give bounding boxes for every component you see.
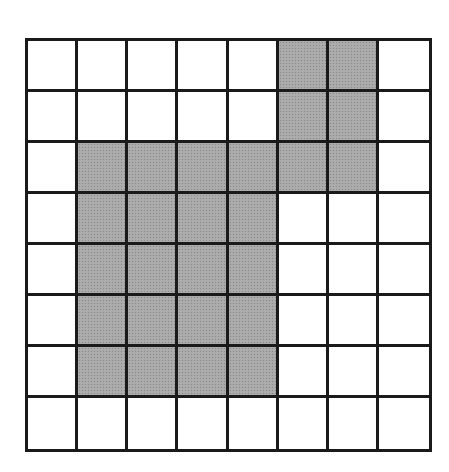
empty-cell bbox=[178, 398, 228, 449]
empty-cell bbox=[178, 92, 228, 143]
shaded-cell bbox=[329, 143, 379, 194]
empty-cell bbox=[178, 41, 228, 92]
empty-cell bbox=[279, 194, 329, 245]
empty-cell bbox=[379, 194, 429, 245]
shaded-cell bbox=[229, 143, 279, 194]
shaded-cell bbox=[229, 296, 279, 347]
shaded-cell bbox=[329, 92, 379, 143]
empty-cell bbox=[329, 398, 379, 449]
empty-cell bbox=[379, 92, 429, 143]
empty-cell bbox=[229, 41, 279, 92]
shaded-cell bbox=[128, 194, 178, 245]
shaded-cell bbox=[78, 347, 128, 398]
shaded-cell bbox=[229, 245, 279, 296]
empty-cell bbox=[28, 347, 78, 398]
empty-cell bbox=[379, 143, 429, 194]
empty-cell bbox=[329, 296, 379, 347]
shaded-cell bbox=[128, 143, 178, 194]
shaded-cell bbox=[279, 143, 329, 194]
shaded-cell bbox=[128, 347, 178, 398]
empty-cell bbox=[229, 398, 279, 449]
empty-cell bbox=[279, 245, 329, 296]
shaded-cell bbox=[78, 143, 128, 194]
empty-cell bbox=[28, 296, 78, 347]
empty-cell bbox=[78, 92, 128, 143]
shaded-cell bbox=[178, 194, 228, 245]
empty-cell bbox=[279, 296, 329, 347]
empty-cell bbox=[128, 41, 178, 92]
shaded-cell bbox=[229, 194, 279, 245]
shaded-cell bbox=[279, 41, 329, 92]
empty-cell bbox=[279, 347, 329, 398]
empty-cell bbox=[329, 347, 379, 398]
empty-cell bbox=[128, 398, 178, 449]
empty-cell bbox=[229, 92, 279, 143]
shaded-cell bbox=[128, 296, 178, 347]
empty-cell bbox=[329, 194, 379, 245]
empty-cell bbox=[279, 398, 329, 449]
shaded-cell bbox=[178, 347, 228, 398]
shaded-cell bbox=[78, 194, 128, 245]
shaded-cell bbox=[128, 245, 178, 296]
empty-cell bbox=[28, 41, 78, 92]
empty-cell bbox=[28, 92, 78, 143]
empty-cell bbox=[28, 143, 78, 194]
empty-cell bbox=[128, 92, 178, 143]
shaded-cell bbox=[178, 143, 228, 194]
empty-cell bbox=[379, 347, 429, 398]
shaded-cell bbox=[229, 347, 279, 398]
empty-cell bbox=[78, 398, 128, 449]
empty-cell bbox=[329, 245, 379, 296]
shaded-cell bbox=[78, 296, 128, 347]
empty-cell bbox=[28, 398, 78, 449]
shaded-cell bbox=[178, 245, 228, 296]
shaded-cell bbox=[329, 41, 379, 92]
shaded-cell bbox=[78, 245, 128, 296]
empty-cell bbox=[28, 245, 78, 296]
empty-cell bbox=[379, 398, 429, 449]
empty-cell bbox=[28, 194, 78, 245]
shaded-cell bbox=[279, 92, 329, 143]
empty-cell bbox=[379, 296, 429, 347]
empty-cell bbox=[379, 41, 429, 92]
shaded-square-grid bbox=[25, 38, 432, 452]
shaded-cell bbox=[178, 296, 228, 347]
empty-cell bbox=[379, 245, 429, 296]
empty-cell bbox=[78, 41, 128, 92]
